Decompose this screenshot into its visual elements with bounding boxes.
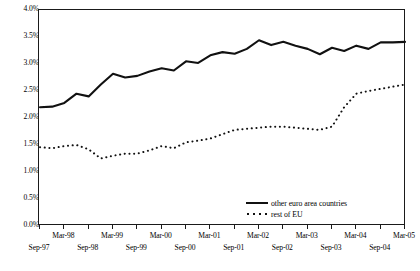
x-axis-tick-label: Sep-98 xyxy=(66,243,110,252)
legend-item-rest-of-eu: rest of EU xyxy=(246,209,347,220)
line-rest-of-eu xyxy=(40,85,405,159)
x-axis-tick-mark xyxy=(282,225,283,229)
y-axis-tick-label: 3.0% xyxy=(7,59,39,67)
x-axis-tick-mark xyxy=(258,225,259,229)
x-axis-tick-label: Mar-99 xyxy=(90,231,134,240)
x-axis-tick-label: Sep-99 xyxy=(114,243,158,252)
x-axis-tick-mark xyxy=(234,225,235,229)
y-axis-tick-label: 2.5% xyxy=(7,86,39,94)
x-axis-tick-label: Sep-02 xyxy=(260,243,304,252)
chart-legend: other euro area countries rest of EU xyxy=(246,198,347,220)
legend-swatch-dotted-icon xyxy=(246,209,268,220)
x-axis-tick-label: Mar-02 xyxy=(236,231,280,240)
x-axis-tick-mark xyxy=(185,225,186,229)
x-axis-tick-mark xyxy=(380,225,381,229)
x-axis-tick-label: Sep-03 xyxy=(309,243,353,252)
x-axis-tick-mark xyxy=(112,225,113,229)
x-axis-tick-label: Mar-01 xyxy=(187,231,231,240)
x-axis-tick-mark xyxy=(307,225,308,229)
x-axis-tick-mark xyxy=(136,225,137,229)
y-axis-tick-label: 4.0% xyxy=(7,5,39,13)
x-axis-tick-mark xyxy=(161,225,162,229)
series-lines xyxy=(39,10,406,226)
x-axis-tick-label: Mar-98 xyxy=(41,231,85,240)
x-axis-tick-mark xyxy=(88,225,89,229)
x-axis-tick-mark xyxy=(209,225,210,229)
x-axis-tick-mark xyxy=(404,225,405,229)
legend-swatch-solid-icon xyxy=(246,198,268,209)
y-axis-tick-label: 2.0% xyxy=(7,113,39,121)
y-axis-tick-label: 0.0% xyxy=(7,221,39,229)
x-axis-tick-label: Mar-03 xyxy=(285,231,329,240)
y-axis-tick-label: 1.0% xyxy=(7,167,39,175)
y-axis-tick-label: 0.5% xyxy=(7,194,39,202)
x-axis-tick-label: Mar-00 xyxy=(139,231,183,240)
y-axis-tick-label: 1.5% xyxy=(7,140,39,148)
x-axis-tick-label: Sep-04 xyxy=(358,243,402,252)
x-axis-tick-mark xyxy=(331,225,332,229)
legend-label-other-euro-area-countries: other euro area countries xyxy=(271,198,347,209)
x-axis-tick-label: Mar-05 xyxy=(382,231,420,240)
legend-item-other-euro-area-countries: other euro area countries xyxy=(246,198,347,209)
x-axis-tick-label: Mar-04 xyxy=(333,231,377,240)
line-other-euro-area-countries xyxy=(40,40,405,107)
x-axis-tick-mark xyxy=(355,225,356,229)
x-axis-tick-label: Sep-01 xyxy=(212,243,256,252)
x-axis-tick-mark xyxy=(39,225,40,229)
legend-label-rest-of-eu: rest of EU xyxy=(271,209,303,220)
x-axis-tick-label: Sep-00 xyxy=(163,243,207,252)
x-axis-tick-mark xyxy=(63,225,64,229)
x-axis-tick-label: Sep-97 xyxy=(17,243,61,252)
y-axis-tick-label: 3.5% xyxy=(7,32,39,40)
plot-area xyxy=(38,9,405,225)
